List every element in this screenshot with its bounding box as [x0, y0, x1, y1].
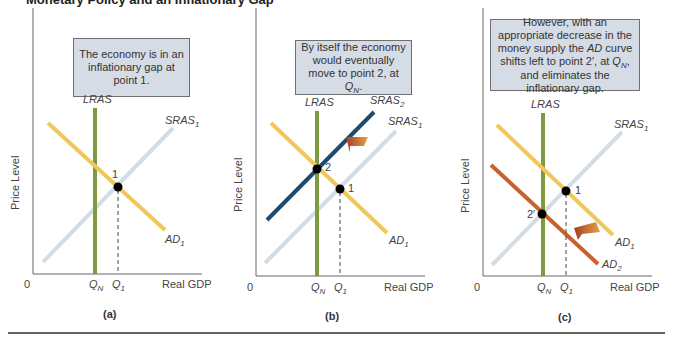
- ad1-curve: [48, 123, 165, 230]
- origin-label: 0: [247, 281, 253, 293]
- sras1-label: SRAS1: [165, 114, 199, 126]
- origin-label: 0: [474, 281, 480, 293]
- origin-label: 0: [24, 278, 30, 290]
- sras1-curve: [492, 132, 622, 265]
- q1-label: Q1: [112, 278, 125, 290]
- q1-label: Q1: [334, 281, 347, 293]
- x-axis-label: Real GDP: [610, 281, 660, 293]
- lras-label: LRAS: [305, 96, 334, 108]
- y-axis-label: Price Level: [9, 156, 21, 210]
- x-axis-label: Real GDP: [162, 278, 212, 290]
- y-axis-label: Price Level: [232, 158, 244, 212]
- point-2-label: 2: [325, 161, 331, 173]
- sras1-label: SRAS1: [614, 118, 648, 130]
- note-text: However, with an appropriate decrease in…: [495, 16, 635, 95]
- ad2-label: AD2: [602, 258, 622, 270]
- point-1-label: 1: [112, 168, 118, 180]
- sras1-label: SRAS1: [388, 115, 422, 127]
- ad1-curve: [271, 123, 387, 233]
- qn-label: QN: [537, 281, 551, 293]
- equilibrium-point-2: [313, 165, 322, 174]
- note-text: The economy is in an inflationary gap at…: [78, 48, 185, 87]
- note-panel-b: By itself the economy would eventually m…: [295, 40, 412, 95]
- y-axis-label: Price Level: [459, 159, 471, 213]
- point-1-label: 1: [575, 184, 581, 196]
- lras-label: LRAS: [531, 98, 560, 110]
- q1-label: Q1: [560, 281, 573, 293]
- qn-label: QN: [311, 281, 325, 293]
- ad1-label: AD1: [389, 234, 409, 246]
- point-2-prime-label: 2′: [527, 208, 535, 220]
- point-1-label: 1: [348, 182, 354, 194]
- sras1-curve: [43, 128, 173, 262]
- equilibrium-point-1: [336, 185, 345, 194]
- note-text: By itself the economy would eventually m…: [300, 41, 407, 94]
- caption-c: (c): [558, 311, 571, 323]
- equilibrium-point-1: [562, 187, 571, 196]
- equilibrium-point-1: [114, 183, 123, 192]
- ad1-curve: [497, 125, 613, 235]
- caption-a: (a): [103, 308, 116, 320]
- ad1-label: AD1: [165, 233, 185, 245]
- sras2-label: SRAS2: [370, 94, 404, 106]
- shift-left-arrow-icon: [346, 137, 368, 153]
- caption-b: (b): [325, 310, 339, 322]
- equilibrium-point-2-prime: [538, 210, 547, 219]
- note-panel-c: However, with an appropriate decrease in…: [490, 19, 640, 91]
- lras-label: LRAS: [83, 93, 112, 105]
- shift-left-arrow-icon: [574, 222, 600, 240]
- x-axis-label: Real GDP: [384, 281, 434, 293]
- note-panel-a: The economy is in an inflationary gap at…: [73, 38, 190, 97]
- qn-label: QN: [89, 278, 103, 290]
- sras1-curve: [265, 131, 396, 263]
- ad1-label: AD1: [615, 236, 635, 248]
